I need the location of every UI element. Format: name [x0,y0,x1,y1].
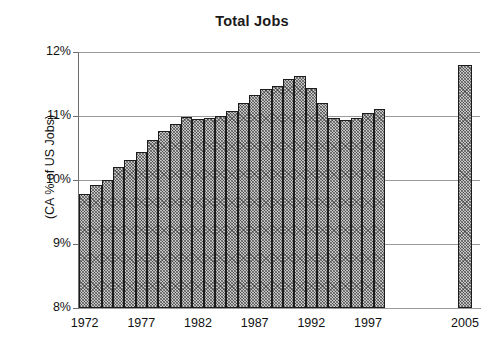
bar-1975 [113,167,124,308]
bar-1989 [272,86,283,308]
bar-1982 [192,119,203,308]
bar-1978 [147,140,158,308]
y-tick-mark [73,180,79,181]
x-tick-label-1982: 1982 [168,316,228,330]
bar-1993 [317,103,328,308]
bar-1986 [238,103,249,308]
bar-1977 [136,152,147,308]
bar-1985 [226,111,237,308]
y-tick-label: 11% [11,109,71,122]
bar-2005 [458,65,472,308]
y-tick-mark [73,244,79,245]
bar-1994 [328,118,339,308]
x-tick-label-2005: 2005 [435,316,495,330]
y-tick-label: 9% [11,237,71,250]
y-tick-label: 10% [11,173,71,186]
bar-1973 [90,185,101,308]
x-tick-label-1987: 1987 [225,316,285,330]
bar-1992 [306,88,317,308]
bar-1984 [215,116,226,308]
bar-1998 [374,109,385,308]
chart-title: Total Jobs [0,13,504,29]
bar-1972 [79,194,90,308]
y-tick-label: 12% [11,45,71,58]
chart-root: Total Jobs (CA % of US Jobs) 12%11%10%9%… [0,0,504,357]
y-axis-tick-labels: 12%11%10%9%8% [3,0,71,357]
bar-1979 [158,131,169,308]
gridline-8 [79,308,480,309]
bar-1988 [260,89,271,308]
y-tick-mark [73,308,79,309]
bar-1995 [340,120,351,308]
x-tick-label-1992: 1992 [281,316,341,330]
bar-1990 [283,79,294,308]
gridline-12 [79,52,480,53]
bar-1976 [124,160,135,308]
bar-1997 [362,113,373,308]
bar-1983 [204,118,215,308]
y-tick-mark [73,52,79,53]
bar-1996 [351,118,362,308]
x-tick-label-1997: 1997 [338,316,398,330]
bar-1987 [249,95,260,308]
x-tick-label-1972: 1972 [55,316,115,330]
x-tick-label-1977: 1977 [111,316,171,330]
y-tick-mark [73,116,79,117]
bar-1981 [181,117,192,308]
bar-1974 [102,180,113,308]
bar-1991 [294,76,305,308]
bar-1980 [170,124,181,308]
plot-area [79,52,480,308]
y-tick-label: 8% [11,301,71,314]
